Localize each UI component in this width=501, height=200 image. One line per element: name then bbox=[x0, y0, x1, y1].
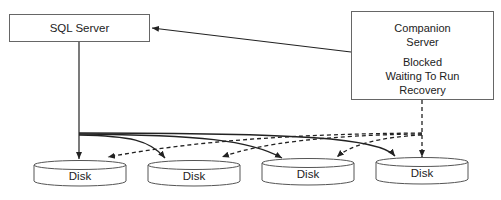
edge-companion-to-sql bbox=[152, 28, 351, 52]
edge-companion-to-disk1 bbox=[108, 133, 422, 157]
sql-server-node: SQL Server bbox=[9, 14, 150, 42]
disk-3-label: Disk bbox=[278, 168, 338, 180]
sql-server-label: SQL Server bbox=[50, 22, 110, 34]
companion-status-line3: Recovery bbox=[352, 83, 493, 97]
disk-4-label: Disk bbox=[392, 167, 452, 179]
edge-sql-to-disk4 bbox=[79, 133, 395, 156]
companion-server-node: Companion Server Blocked Waiting To Run … bbox=[351, 11, 494, 100]
disk-1-label: Disk bbox=[50, 170, 110, 182]
companion-title-line2: Server bbox=[352, 35, 493, 49]
edge-companion-to-disk3 bbox=[337, 135, 422, 157]
disk-2-label: Disk bbox=[164, 170, 224, 182]
companion-status-line1: Blocked bbox=[352, 55, 493, 69]
companion-status-line2: Waiting To Run bbox=[352, 69, 493, 83]
companion-title-line1: Companion bbox=[352, 21, 493, 35]
